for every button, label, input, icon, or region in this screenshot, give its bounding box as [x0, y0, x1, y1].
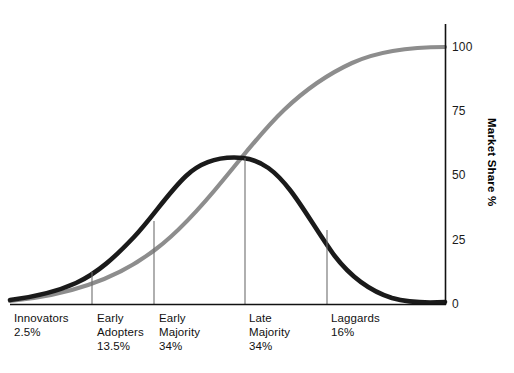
segment-label-laggards: Laggards — [331, 311, 380, 325]
y-tick-75: 75 — [452, 104, 466, 118]
y-tick-0: 0 — [452, 297, 459, 311]
adoption-rate-curve — [10, 158, 445, 303]
cumulative-share-curve — [10, 47, 445, 301]
segment-percent-early-adopters: 13.5% — [97, 339, 130, 353]
segment-percent-laggards: 16% — [331, 325, 354, 339]
segment-percent-early-majority: 34% — [159, 339, 182, 353]
segment-label-late-majority: Late Majority — [249, 311, 290, 339]
segment-percent-innovators: 2.5% — [14, 325, 41, 339]
segment-label-innovators: Innovators — [14, 311, 69, 325]
segment-label-early-adopters: Early Adopters — [97, 311, 144, 339]
segment-percent-late-majority: 34% — [249, 339, 272, 353]
y-tick-25: 25 — [452, 233, 466, 247]
y-tick-100: 100 — [452, 40, 473, 54]
y-axis-title: Market Share % — [486, 118, 498, 206]
segment-label-early-majority: Early Majority — [159, 311, 200, 339]
adoption-lifecycle-chart: 100 75 50 25 0 Market Share % Innovators… — [0, 0, 514, 373]
y-tick-50: 50 — [452, 168, 466, 182]
